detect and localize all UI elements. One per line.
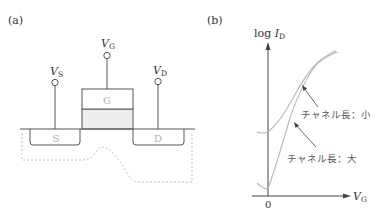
source-terminal-icon (52, 79, 58, 85)
gate-region-label: G (103, 95, 111, 106)
arrow-short-channel (304, 88, 318, 107)
gate-terminal-icon (104, 52, 110, 58)
curve-short-channel (257, 51, 336, 133)
drain-voltage-label: VD (153, 64, 167, 78)
panel-a-label: (a) (8, 14, 23, 27)
y-axis-label: log ID (254, 27, 285, 41)
gate-oxide (82, 109, 133, 129)
mosfet-figure: (a) VS VG VD G S D (b) log ID VG 0 チャネル長… (0, 0, 388, 220)
source-region-label: S (53, 133, 60, 144)
panel-b-label: (b) (207, 14, 223, 27)
origin-label: 0 (265, 199, 271, 210)
curve-long-channel (257, 52, 338, 189)
arrow-long-channel (296, 125, 316, 147)
x-axis-arrow-icon (343, 194, 351, 199)
annotation-short-channel: チャネル長：小 (301, 109, 371, 120)
y-axis-arrow-icon (266, 42, 271, 50)
drain-region-label: D (154, 133, 162, 144)
source-voltage-label: VS (50, 65, 63, 79)
drain-terminal-icon (155, 78, 161, 84)
annotation-long-channel: チャネル長：大 (287, 153, 357, 164)
x-axis-label: VG (353, 190, 367, 204)
arrow-short-head-icon (302, 85, 307, 91)
gate-voltage-label: VG (101, 37, 115, 51)
